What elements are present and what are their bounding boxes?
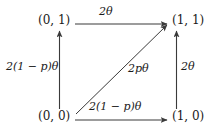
transition-diagram: (0, 1) (1, 1) (0, 0) (1, 0) 2θ 2(1 − p)θ… [0,0,209,136]
node-label-1-1: (1, 1) [172,14,204,26]
edge-label-diagonal: 2pθ [128,63,149,74]
node-label-0-0: (0, 0) [38,110,70,122]
node-label-1-0: (1, 0) [172,110,204,122]
node-label-0-1: (0, 1) [38,14,70,26]
edge-label-top: 2θ [99,6,113,17]
edge-label-left: 2(1 − p)θ [6,61,58,72]
edge-label-bottom: 2(1 − p)θ [89,101,141,112]
edge-label-right: 2θ [181,61,195,72]
